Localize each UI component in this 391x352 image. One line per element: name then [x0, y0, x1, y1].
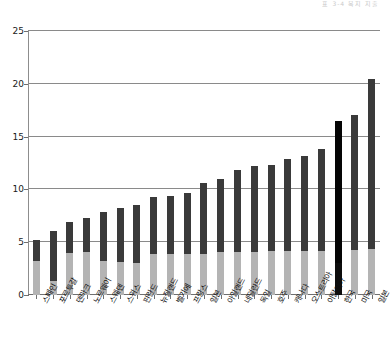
bar-segment-upper: [33, 240, 40, 261]
bar-segment-upper: [251, 166, 258, 252]
bar-스웨덴[interactable]: [100, 31, 107, 295]
bar-일본[interactable]: [368, 31, 375, 295]
x-tick-mark: [36, 295, 37, 299]
bar-핀란드[interactable]: [133, 31, 140, 295]
bar-slot: [78, 31, 95, 295]
y-tick-label-0: 0: [0, 290, 24, 300]
bar-segment-lower: [217, 252, 224, 295]
bar-뉴질랜드[interactable]: [150, 31, 157, 295]
bar-segment-upper: [100, 212, 107, 262]
bar-오스트리아[interactable]: [301, 31, 308, 295]
bar-slot: [45, 31, 62, 295]
bar-slot: [112, 31, 129, 295]
y-tick-label-5: 5: [0, 237, 24, 247]
bar-slot: [95, 31, 112, 295]
bar-segment-lower: [368, 249, 375, 295]
bar-포르투갈[interactable]: [50, 31, 57, 295]
bar-미국[interactable]: [351, 31, 358, 295]
bar-slot: [313, 31, 330, 295]
bar-segment-lower: [33, 261, 40, 295]
bar-segment-lower: [284, 251, 291, 295]
bar-slot: [162, 31, 179, 295]
bar-slot: [196, 31, 213, 295]
bar-스페인[interactable]: [33, 31, 40, 295]
bar-이탈리아[interactable]: [318, 31, 325, 295]
y-tick-label-20: 20: [0, 79, 24, 89]
bar-아일랜드[interactable]: [217, 31, 224, 295]
bar-segment-upper: [368, 79, 375, 249]
y-axis-labels: 0510152025: [0, 31, 24, 295]
bar-segment-upper: [268, 165, 275, 251]
x-axis-labels: 스페인포르투갈덴마크노르웨이스웨덴스위스핀란드뉴질랜드벨기에프랑스일본아일랜드네…: [28, 300, 380, 352]
bar-segment-upper: [133, 205, 140, 263]
bar-series: [28, 31, 380, 295]
bar-스위스[interactable]: [117, 31, 124, 295]
bar-segment-upper: [351, 115, 358, 249]
bar-segment-upper: [150, 197, 157, 254]
bar-segment-upper: [301, 156, 308, 251]
bar-slot: [229, 31, 246, 295]
bar-segment-upper: [50, 231, 57, 282]
bar-한국[interactable]: [335, 31, 342, 295]
bar-노르웨이[interactable]: [83, 31, 90, 295]
bar-slot: [212, 31, 229, 295]
bar-네덜란드[interactable]: [234, 31, 241, 295]
bar-일본[interactable]: [200, 31, 207, 295]
bar-segment-upper: [318, 149, 325, 250]
bar-덴마크[interactable]: [66, 31, 73, 295]
bar-slot: [129, 31, 146, 295]
header-faint-text: 표 3-4 복지 지출: [283, 0, 379, 7]
bar-segment-upper: [234, 170, 241, 251]
bar-segment-lower: [268, 251, 275, 295]
bar-slot: [145, 31, 162, 295]
bar-segment-upper: [335, 121, 342, 264]
bar-segment-upper: [200, 183, 207, 254]
bar-slot: [263, 31, 280, 295]
bar-slot: [279, 31, 296, 295]
bar-slot: [179, 31, 196, 295]
bar-segment-upper: [184, 193, 191, 254]
bar-segment-upper: [217, 179, 224, 252]
bar-프랑스[interactable]: [184, 31, 191, 295]
bar-slot: [330, 31, 347, 295]
bar-호주[interactable]: [268, 31, 275, 295]
bar-segment-upper: [167, 196, 174, 254]
bar-segment-upper: [83, 218, 90, 252]
bar-slot: [62, 31, 79, 295]
bar-segment-upper: [66, 222, 73, 253]
bar-독일[interactable]: [251, 31, 258, 295]
plot-area: [28, 31, 380, 295]
bar-slot: [28, 31, 45, 295]
y-tick-label-15: 15: [0, 132, 24, 142]
bar-segment-upper: [284, 159, 291, 251]
bar-slot: [346, 31, 363, 295]
bar-slot: [363, 31, 380, 295]
bar-벨기에[interactable]: [167, 31, 174, 295]
y-tick-label-10: 10: [0, 184, 24, 194]
bar-segment-lower: [351, 250, 358, 295]
bar-slot: [296, 31, 313, 295]
bar-segment-upper: [117, 208, 124, 262]
bar-캐나다[interactable]: [284, 31, 291, 295]
bar-slot: [246, 31, 263, 295]
y-tick-label-25: 25: [0, 26, 24, 36]
